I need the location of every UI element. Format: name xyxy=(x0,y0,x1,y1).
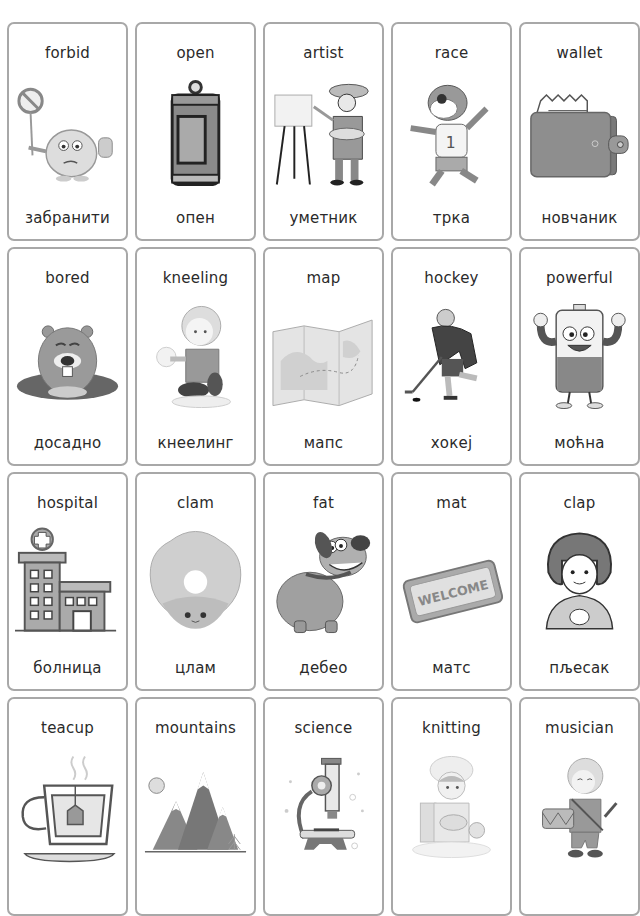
flashcard-musician: musician xyxy=(519,697,640,916)
english-word: clap xyxy=(521,494,638,512)
english-word: hockey xyxy=(393,269,510,287)
teacup-icon xyxy=(15,747,120,867)
clam-shell-icon xyxy=(143,522,248,642)
serbian-word: уметник xyxy=(265,209,382,227)
flashcard-powerful: powerful моћна xyxy=(519,247,640,466)
drummer-boy-icon xyxy=(527,747,632,867)
serbian-word: цлам xyxy=(137,659,254,677)
english-word: clam xyxy=(137,494,254,512)
serbian-word: моћна xyxy=(521,434,638,452)
flashcard-bored: bored досадно xyxy=(7,247,128,466)
knitting-girl-icon xyxy=(399,747,504,867)
kneeling-boy-icon xyxy=(143,297,248,417)
english-word: science xyxy=(265,719,382,737)
serbian-word: дебео xyxy=(265,659,382,677)
flashcard-artist: artist уметник xyxy=(263,22,384,241)
flashcard-kneeling: kneeling кнеелинг xyxy=(135,247,256,466)
flashcard-mat: mat WELCOME матс xyxy=(391,472,512,691)
flashcard-mountains: mountains xyxy=(135,697,256,916)
flashcard-open: open опен xyxy=(135,22,256,241)
serbian-word: хокеј xyxy=(393,434,510,452)
serbian-word: кнеелинг xyxy=(137,434,254,452)
serbian-word: забранити xyxy=(9,209,126,227)
english-word: knitting xyxy=(393,719,510,737)
clapping-girl-icon xyxy=(527,522,632,642)
soda-can-icon xyxy=(143,72,248,192)
english-word: wallet xyxy=(521,44,638,62)
english-word: artist xyxy=(265,44,382,62)
english-word: map xyxy=(265,269,382,287)
serbian-word: досадно xyxy=(9,434,126,452)
microscope-icon xyxy=(271,747,376,867)
mountains-icon xyxy=(143,747,248,867)
english-word: race xyxy=(393,44,510,62)
serbian-word: трка xyxy=(393,209,510,227)
english-word: forbid xyxy=(9,44,126,62)
svg-text:1: 1 xyxy=(446,134,456,152)
flashcard-clap: clap пљесак xyxy=(519,472,640,691)
flashcard-map: map мапс xyxy=(263,247,384,466)
flashcard-fat: fat дебео xyxy=(263,472,384,691)
folded-map-icon xyxy=(271,297,376,417)
flashcard-science: science xyxy=(263,697,384,916)
english-word: kneeling xyxy=(137,269,254,287)
hockey-player-icon xyxy=(399,297,504,417)
beaver-icon xyxy=(15,297,120,417)
serbian-word: матс xyxy=(393,659,510,677)
flashcard-grid: forbid забранити open xyxy=(7,22,640,916)
fat-dog-icon xyxy=(271,522,376,642)
running-raccoon-icon: 1 xyxy=(399,72,504,192)
flashcard-forbid: forbid забранити xyxy=(7,22,128,241)
painter-easel-icon xyxy=(271,72,376,192)
serbian-word: новчаник xyxy=(521,209,638,227)
flashcard-teacup: teacup xyxy=(7,697,128,916)
forbid-monster-icon xyxy=(15,72,120,192)
english-word: fat xyxy=(265,494,382,512)
english-word: hospital xyxy=(9,494,126,512)
flashcard-hockey: hockey хокеј xyxy=(391,247,512,466)
english-word: powerful xyxy=(521,269,638,287)
flashcard-race: race 1 трка xyxy=(391,22,512,241)
wallet-icon xyxy=(527,72,632,192)
serbian-word: пљесак xyxy=(521,659,638,677)
english-word: bored xyxy=(9,269,126,287)
english-word: open xyxy=(137,44,254,62)
serbian-word: опен xyxy=(137,209,254,227)
strong-battery-icon xyxy=(527,297,632,417)
flashcard-wallet: wallet новчаник xyxy=(519,22,640,241)
flashcard-hospital: hospital xyxy=(7,472,128,691)
flashcard-clam: clam цлам xyxy=(135,472,256,691)
serbian-word: болница xyxy=(9,659,126,677)
english-word: teacup xyxy=(9,719,126,737)
flashcard-knitting: knitting xyxy=(391,697,512,916)
serbian-word: мапс xyxy=(265,434,382,452)
english-word: mountains xyxy=(137,719,254,737)
english-word: mat xyxy=(393,494,510,512)
welcome-mat-icon: WELCOME xyxy=(399,522,504,642)
english-word: musician xyxy=(521,719,638,737)
hospital-building-icon xyxy=(15,522,120,642)
